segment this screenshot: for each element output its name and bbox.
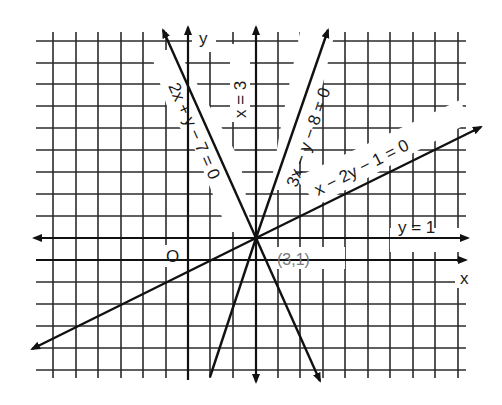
label-y-1: y = 1	[398, 218, 435, 237]
intersection-point	[254, 236, 259, 241]
origin-label: O	[166, 247, 179, 266]
x-axis-label: x	[460, 269, 469, 288]
coordinate-diagram: y x O 2x + y − 7 = 0 x = 3 3x − y − 8 = …	[0, 0, 502, 405]
intersection-label: (3,1)	[277, 251, 310, 268]
y-axis-label: y	[199, 29, 208, 48]
grid	[36, 32, 466, 378]
label-x-3: x = 3	[231, 81, 250, 118]
